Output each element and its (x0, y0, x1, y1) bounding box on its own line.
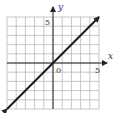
coordinate-plane: x y 0 5 5 (0, 0, 114, 113)
x-tick-label-5: 5 (95, 66, 100, 75)
x-axis-label: x (108, 51, 113, 61)
y-tick-label-5: 5 (45, 18, 50, 27)
y-axis-label: y (57, 2, 64, 12)
origin-label: 0 (56, 66, 61, 75)
